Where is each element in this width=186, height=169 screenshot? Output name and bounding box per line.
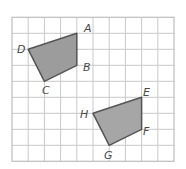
vertex-label-h: H (80, 108, 88, 121)
quadrilateral-abcd (28, 33, 77, 81)
vertex-label-f: F (143, 125, 150, 138)
vertex-labels: ABCDEFGH (17, 22, 150, 162)
grid-diagram: ABCDEFGH (0, 0, 186, 169)
quadrilateral-efgh (93, 97, 142, 145)
vertex-label-b: B (83, 61, 91, 74)
vertex-label-c: C (42, 84, 50, 97)
vertex-label-a: A (83, 22, 92, 35)
vertex-label-d: D (17, 43, 25, 56)
vertex-label-g: G (104, 149, 113, 162)
vertex-label-e: E (143, 86, 150, 99)
